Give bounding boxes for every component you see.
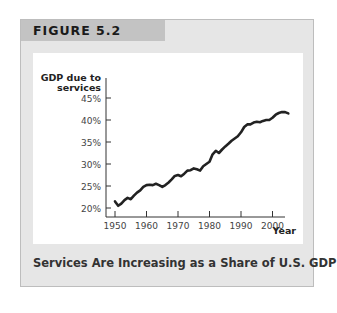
x-axis-title: Year <box>271 225 296 236</box>
y-tick-label: 30% <box>81 160 101 170</box>
x-tick-label: 1990 <box>230 221 253 231</box>
x-tick-label: 1950 <box>104 221 127 231</box>
x-tick-label: 1980 <box>198 221 221 231</box>
y-axis-title: GDP due toservices <box>41 72 102 93</box>
y-axis-title-line: services <box>57 82 101 93</box>
y-tick-label: 40% <box>81 116 101 126</box>
figure-label: FIGURE 5.2 <box>33 23 121 38</box>
x-axis-ticks: 195019601970198019902000 <box>104 211 285 231</box>
y-tick-label: 20% <box>81 204 101 214</box>
line-chart: GDP due toservices 20%25%30%35%40%45% 19… <box>33 53 303 244</box>
x-tick-label: 1970 <box>167 221 190 231</box>
chart-panel: GDP due toservices 20%25%30%35%40%45% 19… <box>33 53 303 244</box>
figure-frame: FIGURE 5.2 GDP due toservices 20%25%30%3… <box>20 19 314 287</box>
figure-caption: Services Are Increasing as a Share of U.… <box>33 256 337 270</box>
series-line <box>115 112 288 206</box>
x-tick-label: 1960 <box>135 221 158 231</box>
y-tick-label: 45% <box>81 94 101 104</box>
figure-label-bar: FIGURE 5.2 <box>21 20 165 41</box>
y-tick-label: 25% <box>81 182 101 192</box>
y-tick-label: 35% <box>81 138 101 148</box>
